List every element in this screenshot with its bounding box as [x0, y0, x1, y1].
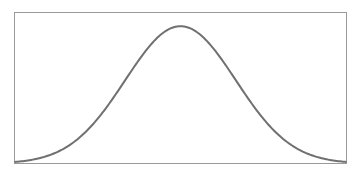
plot-frame: [15, 13, 347, 164]
chart: [0, 0, 360, 173]
